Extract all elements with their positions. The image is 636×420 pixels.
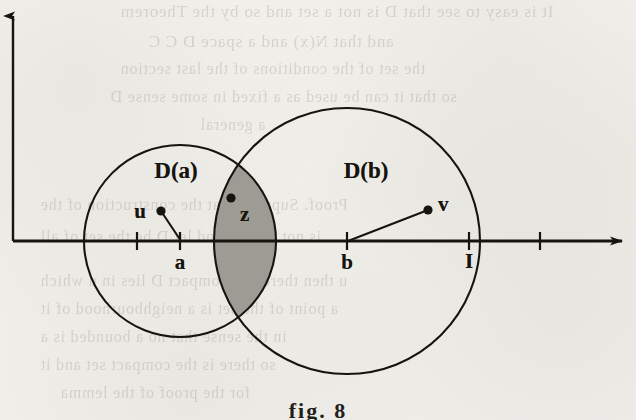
point-label-z: z bbox=[240, 202, 249, 227]
point-dot-z bbox=[226, 193, 235, 202]
marked-points bbox=[156, 193, 432, 215]
geometric-figure bbox=[0, 0, 636, 420]
figure-page: It is easy to see that D is not a set an… bbox=[0, 0, 636, 420]
connector-segments bbox=[161, 210, 428, 241]
point-label-v: v bbox=[438, 192, 449, 217]
segment-u-to-a bbox=[161, 211, 181, 241]
circle-label-D(b): D(b) bbox=[344, 158, 389, 184]
point-dot-v bbox=[423, 205, 432, 214]
circle-label-D(a): D(a) bbox=[154, 158, 197, 184]
point-label-u: u bbox=[134, 199, 146, 224]
tick-label-a: a bbox=[175, 250, 186, 275]
point-dot-u bbox=[156, 206, 165, 215]
tick-label-I: I bbox=[465, 249, 473, 274]
figure-caption: fig. 8 bbox=[0, 398, 636, 420]
tick-label-b: b bbox=[341, 250, 353, 275]
segment-v-to-b bbox=[348, 210, 428, 241]
